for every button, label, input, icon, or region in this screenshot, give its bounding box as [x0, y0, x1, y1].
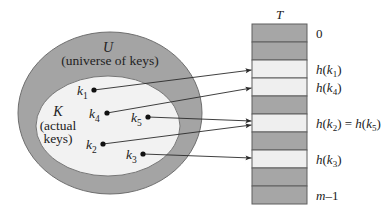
slot-label-0: 0 [316, 26, 323, 41]
slot-label-7: h(k3) [316, 152, 341, 169]
actual-keys-symbol: K [52, 104, 63, 119]
table-title: T [276, 7, 284, 22]
key-dot-k2 [100, 141, 105, 146]
actual-keys-caption-line2: keys) [43, 131, 72, 146]
diagram-canvas: U (universe of keys) K (actual keys) T 0… [0, 0, 390, 215]
table-slot-8 [252, 168, 307, 186]
slot-label-5: h(k2) = h(k5) [316, 116, 381, 133]
table-slot-6 [252, 132, 307, 150]
slot-label-3: h(k4) [316, 80, 341, 97]
hash-table-slots [252, 24, 307, 204]
table-slot-4 [252, 96, 307, 114]
slot-label-2: h(k1) [316, 62, 341, 79]
table-slot-7 [252, 150, 307, 168]
key-dot-k3 [140, 151, 145, 156]
table-slot-0 [252, 24, 307, 42]
key-dot-k5 [145, 114, 150, 119]
key-dot-k4 [104, 110, 109, 115]
hash-table-slot-labels: 0h(k1)h(k4)h(k2) = h(k5)h(k3)m–1 [316, 26, 381, 203]
table-slot-9 [252, 186, 307, 204]
table-slot-5 [252, 114, 307, 132]
table-slot-1 [252, 42, 307, 60]
hash-table-diagram: U (universe of keys) K (actual keys) T 0… [0, 0, 390, 215]
table-slot-3 [252, 78, 307, 96]
table-slot-2 [252, 60, 307, 78]
universe-caption: (universe of keys) [61, 53, 158, 68]
key-dot-k1 [91, 87, 96, 92]
slot-label-9: m–1 [316, 188, 338, 203]
